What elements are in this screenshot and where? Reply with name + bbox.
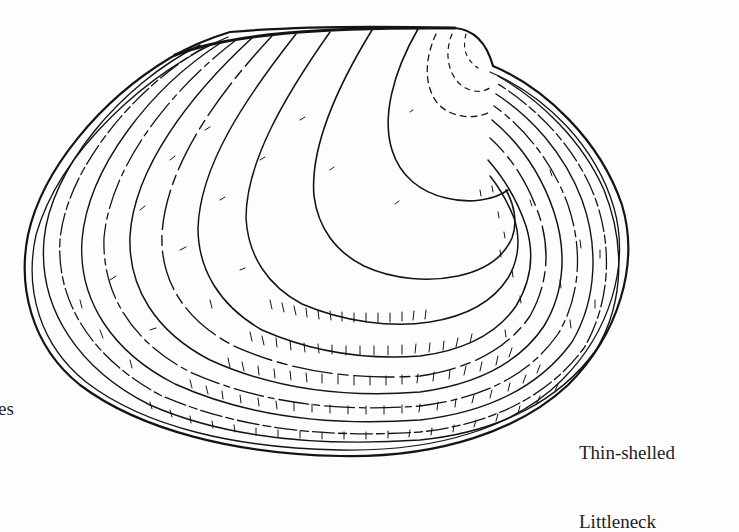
caption-line-1: Thin-shelled [579,441,675,464]
species-caption: Thin-shelled Littleneck [579,395,675,532]
hatching [80,110,600,439]
cropped-caption-fragment: es [0,397,14,420]
caption-line-2: Littleneck [579,510,675,532]
